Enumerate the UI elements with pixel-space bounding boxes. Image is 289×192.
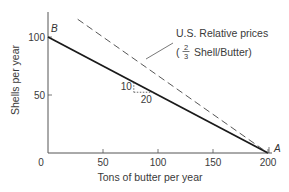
x-ticks: 050100150200 bbox=[38, 149, 277, 168]
x-tick-label: 0 bbox=[38, 157, 44, 168]
relative-prices-units: Shell/Butter) bbox=[194, 46, 252, 58]
slope-rise-label: 10 bbox=[121, 81, 133, 92]
leader-line bbox=[146, 43, 173, 59]
fraction-denominator: 3 bbox=[184, 52, 188, 61]
series bbox=[48, 19, 268, 153]
x-tick-label: 50 bbox=[97, 157, 109, 168]
point-label-a: A bbox=[273, 143, 281, 154]
points: BA bbox=[51, 23, 281, 154]
y-tick-label: 100 bbox=[28, 32, 45, 43]
relative-prices-title: U.S. Relative prices bbox=[176, 27, 268, 39]
chart: 050100150200 50100 10 20 U.S. Relative p… bbox=[0, 0, 289, 192]
x-tick-label: 200 bbox=[260, 157, 277, 168]
relative-prices-annotation: U.S. Relative prices ( 2 3 Shell/Butter) bbox=[146, 27, 268, 61]
relative-prices-open-paren: ( bbox=[176, 46, 180, 58]
x-tick-label: 150 bbox=[205, 157, 222, 168]
y-tick-label: 50 bbox=[34, 90, 46, 101]
point-label-b: B bbox=[51, 23, 58, 34]
slope-run-label: 20 bbox=[141, 94, 153, 105]
relative-price-line bbox=[78, 19, 268, 153]
y-axis-title: Shells per year bbox=[9, 44, 21, 115]
x-tick-label: 100 bbox=[150, 157, 167, 168]
fraction-numerator: 2 bbox=[184, 43, 188, 52]
x-axis-title: Tons of butter per year bbox=[97, 171, 203, 183]
